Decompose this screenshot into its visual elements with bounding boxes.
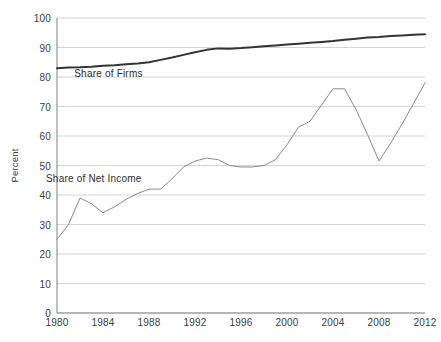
chart-container: Percent 1009080706050403020100 198019841… [0,0,441,342]
series-label-share-of-net-income: Share of Net Income [46,173,142,184]
plot-area [0,0,441,342]
data-series-group [57,34,425,239]
gridline-group [57,18,425,284]
series-line-share-of-firms [57,34,425,68]
series-label-share-of-firms: Share of Firms [74,68,142,79]
